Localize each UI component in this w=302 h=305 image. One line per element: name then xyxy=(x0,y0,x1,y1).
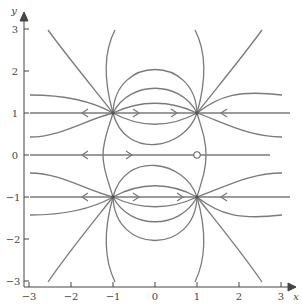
y-tick-label: −1 xyxy=(6,192,21,203)
x-tick-label: −2 xyxy=(64,291,79,302)
x-tick-label: −3 xyxy=(22,291,37,302)
phase-portrait: −3 −2 −1 0 1 2 3 x 3 2 1 0 −1 −2 −3 y xyxy=(0,0,302,305)
trajectory xyxy=(197,113,282,137)
y-tick-labels: 3 2 1 0 −1 −2 −3 y xyxy=(6,5,21,287)
trajectory xyxy=(30,173,113,197)
x-tick-label: 0 xyxy=(152,291,158,302)
x-tick-label: 1 xyxy=(194,291,200,302)
y-tick-label: 1 xyxy=(12,108,18,119)
trajectory xyxy=(197,113,206,155)
trajectory xyxy=(113,88,197,113)
trajectory xyxy=(113,197,197,222)
trajectory xyxy=(197,197,262,282)
equilibrium-point xyxy=(195,111,199,115)
trajectory xyxy=(113,70,197,114)
trajectory xyxy=(103,155,113,197)
trajectory xyxy=(103,113,113,155)
trajectory xyxy=(113,197,197,241)
axes xyxy=(20,12,296,291)
trajectory xyxy=(113,165,197,197)
equilibrium-point xyxy=(111,111,115,115)
trajectory xyxy=(30,113,113,137)
trajectories xyxy=(30,30,290,282)
y-tick-label: 3 xyxy=(12,24,18,35)
y-tick-label: −2 xyxy=(6,234,21,245)
trajectory xyxy=(197,173,282,197)
x-axis-arrow-icon xyxy=(288,283,296,291)
open-equilibrium-point xyxy=(194,152,200,158)
y-tick-label: 2 xyxy=(12,66,18,77)
x-tick-label: 3 xyxy=(278,291,284,302)
x-axis-label: x xyxy=(293,291,299,302)
trajectory xyxy=(106,30,115,113)
y-tick-label: 0 xyxy=(12,150,18,161)
equilibrium-point xyxy=(111,195,115,199)
y-ticks xyxy=(24,29,29,281)
y-axis-arrow-icon xyxy=(20,12,28,21)
trajectory xyxy=(113,113,197,124)
x-tick-labels: −3 −2 −1 0 1 2 3 x xyxy=(22,291,300,302)
trajectory xyxy=(197,30,262,113)
trajectory xyxy=(113,186,197,197)
trajectory xyxy=(113,197,197,207)
equilibrium-point xyxy=(195,195,199,199)
trajectory xyxy=(113,103,197,113)
x-tick-label: −1 xyxy=(106,291,121,302)
trajectory xyxy=(197,155,206,197)
trajectory xyxy=(106,197,115,282)
trajectory xyxy=(195,197,204,282)
x-tick-label: 2 xyxy=(236,291,242,302)
y-axis-label: y xyxy=(10,5,17,16)
trajectory xyxy=(113,113,197,145)
trajectory xyxy=(195,30,204,113)
y-tick-label: −3 xyxy=(6,276,21,287)
x-ticks xyxy=(29,282,281,287)
